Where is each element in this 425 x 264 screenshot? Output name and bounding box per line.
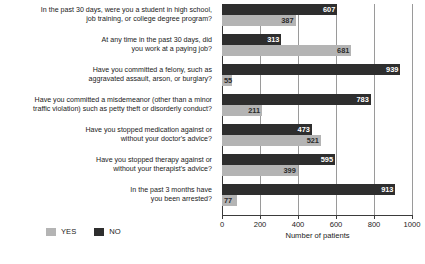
bar-no: 313 [222,34,281,45]
x-axis-line [222,215,413,216]
question-label-line: Have you stopped medication against or [0,126,212,135]
question-label-line: Have you stopped therapy against or [0,156,212,165]
bar-yes: 211 [222,105,262,116]
question-label-line: aggravated assault, arson, or burglary? [0,75,212,84]
question-label-line: job training, or college degree program? [0,15,212,24]
question-label-line: you been arrested? [0,195,212,204]
bar-value-label: 939 [386,64,398,75]
bar-yes: 387 [222,15,296,26]
bar-no: 607 [222,4,337,15]
x-tick-mark [412,216,413,219]
chart-footnote [12,257,404,264]
bar-yes: 681 [222,45,351,56]
x-axis-title: Number of patients [222,231,413,240]
gridline [412,4,413,215]
bar-no: 473 [222,124,312,135]
question-label: At any time in the past 30 days, didyou … [0,36,212,53]
bar-value-label: 607 [323,4,335,15]
bar-group: 313681 [222,34,412,56]
bar-group: 93955 [222,64,412,86]
x-tick-label: 400 [283,220,313,229]
bar-group: 473521 [222,124,412,146]
question-label-line: you work at a paying job? [0,45,212,54]
bar-value-label: 399 [283,165,295,176]
question-label: In the past 30 days, were you a student … [0,6,212,23]
x-tick-mark [222,216,223,219]
bar-no: 913 [222,184,395,195]
bar-no: 939 [222,64,400,75]
question-label: Have you committed a misdemeanor (other … [0,96,212,113]
bar-group: 91377 [222,184,412,206]
bar-value-label: 387 [281,15,293,26]
bar-value-label: 77 [224,195,232,206]
bar-yes: 77 [222,195,237,206]
question-label: Have you committed a felony, such asaggr… [0,66,212,83]
bar-yes: 521 [222,135,321,146]
chart-legend: YES NO [46,227,121,236]
bar-value-label: 211 [248,105,260,116]
bar-no: 595 [222,154,335,165]
bar-value-label: 521 [307,135,319,146]
bar-value-label: 55 [224,75,232,86]
x-tick-label: 600 [321,220,351,229]
bar-value-label: 681 [337,45,349,56]
bar-yes: 399 [222,165,298,176]
bar-value-label: 913 [381,184,393,195]
bar-group: 783211 [222,94,412,116]
bar-value-label: 313 [267,34,279,45]
bar-yes: 55 [222,75,232,86]
x-tick-mark [260,216,261,219]
x-tick-label: 800 [359,220,389,229]
legend-item-yes: YES [46,227,76,236]
x-tick-mark [374,216,375,219]
question-label-line: In the past 3 months have [0,186,212,195]
bar-value-label: 595 [321,154,333,165]
x-tick-label: 200 [245,220,275,229]
x-tick-mark [336,216,337,219]
bar-value-label: 783 [356,94,368,105]
question-label-line: Have you committed a misdemeanor (other … [0,96,212,105]
legend-label-no: NO [109,227,120,236]
legend-item-no: NO [94,227,120,236]
question-labels-column: In the past 30 days, were you a student … [0,0,216,222]
question-label-line: In the past 30 days, were you a student … [0,6,212,15]
question-label-line: without your doctor's advice? [0,135,212,144]
bar-value-label: 473 [298,124,310,135]
bar-no: 783 [222,94,371,105]
legend-swatch-no-icon [94,228,104,236]
x-tick-mark [298,216,299,219]
question-label: Have you stopped medication against orwi… [0,126,212,143]
bar-group: 595399 [222,154,412,176]
legend-label-yes: YES [61,227,76,236]
legend-swatch-yes-icon [46,228,56,236]
question-label: In the past 3 months haveyou been arrest… [0,186,212,203]
x-tick-label: 1000 [397,220,425,229]
question-label-line: traffic violation) such as petty theft o… [0,105,212,114]
x-tick-label: 0 [207,220,237,229]
question-label: Have you stopped therapy against orwitho… [0,156,212,173]
plot-area: 6073873136819395578321147352159539991377 [222,4,412,215]
bar-group: 607387 [222,4,412,26]
question-label-line: Have you committed a felony, such as [0,66,212,75]
question-label-line: without your therapist's advice? [0,165,212,174]
question-label-line: At any time in the past 30 days, did [0,36,212,45]
